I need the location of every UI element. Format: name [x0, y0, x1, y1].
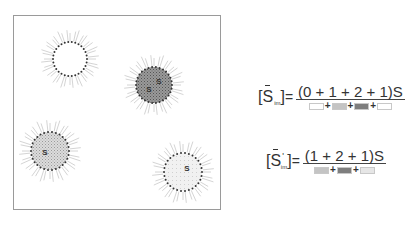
formula-total-s: [ S im ] = (0 + 1 + 2 + 1)S +++	[258, 84, 405, 110]
plus-sign: +	[325, 102, 331, 110]
denominator: +++	[309, 102, 393, 110]
color-swatch	[332, 103, 347, 110]
cell-top-right: SS	[124, 55, 184, 115]
equals-sign: =	[285, 89, 293, 105]
symbol-text: S	[270, 152, 281, 169]
plus-sign: +	[353, 166, 359, 174]
s-bar-symbol: S	[270, 152, 281, 170]
cell-body	[31, 132, 69, 170]
s-bar-symbol: S	[262, 88, 273, 106]
formula-lhs: [ S im ] =	[258, 88, 293, 106]
denominator: ++	[314, 166, 375, 174]
cell-label: S	[146, 85, 152, 94]
fraction: (1 + 2 + 1)S ++	[303, 148, 386, 174]
plus-sign: +	[348, 102, 354, 110]
symbol-text: S	[262, 88, 273, 105]
formula-lhs: [ S ' im ] =	[266, 152, 300, 170]
cell-label: S	[156, 77, 162, 86]
plus-sign: +	[370, 102, 376, 110]
color-swatch	[354, 103, 369, 110]
plus-sign: +	[330, 166, 336, 174]
prime-mark: '	[282, 151, 284, 161]
cell-label: S	[42, 148, 48, 157]
fraction: (0 + 1 + 2 + 1)S +++	[296, 84, 405, 110]
cell-body	[164, 153, 202, 191]
subscript: im	[274, 100, 280, 106]
numerator: (0 + 1 + 2 + 1)S	[296, 84, 405, 100]
cell-top-left	[41, 30, 99, 88]
numerator: (1 + 2 + 1)S	[303, 148, 386, 164]
cell-bottom-right: S	[152, 141, 214, 203]
formula-prime-s: [ S ' im ] = (1 + 2 + 1)S ++	[266, 148, 386, 174]
cell-label: S	[184, 164, 190, 173]
color-swatch	[314, 167, 329, 174]
color-swatch	[309, 103, 324, 110]
color-swatch	[360, 167, 375, 174]
color-swatch	[337, 167, 352, 174]
cell-bottom-left: S	[19, 120, 81, 182]
equals-sign: =	[292, 153, 300, 169]
subscript: im	[281, 164, 287, 170]
color-swatch	[377, 103, 392, 110]
